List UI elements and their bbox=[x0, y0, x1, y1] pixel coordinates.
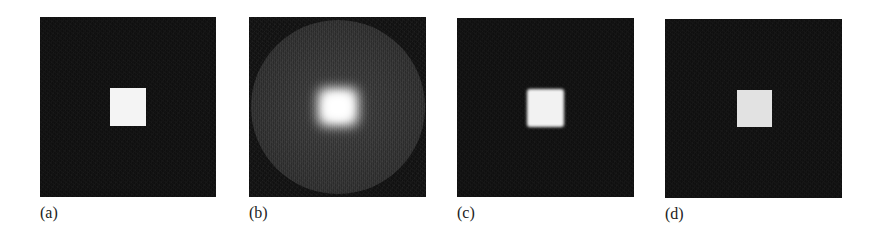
panel-a-image bbox=[40, 17, 216, 197]
soft-edged-square bbox=[527, 89, 564, 127]
panel-d-image bbox=[665, 19, 842, 198]
panel-b-image bbox=[249, 17, 426, 197]
bright-square bbox=[110, 88, 146, 126]
panel-c-image bbox=[457, 18, 634, 197]
panel-d-label: (d) bbox=[665, 206, 684, 222]
panel-a-label: (a) bbox=[40, 205, 58, 221]
sharp-gray-square bbox=[737, 90, 772, 127]
panel-b-label: (b) bbox=[249, 205, 268, 221]
panel-c-label: (c) bbox=[457, 205, 475, 221]
bright-core bbox=[325, 95, 351, 119]
